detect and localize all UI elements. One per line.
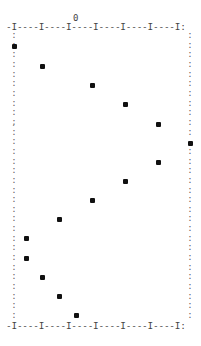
left-border: : : : : : : : : : ; : : : : : : : : : : …	[11, 31, 17, 321]
data-point-marker	[123, 179, 128, 184]
data-point-marker	[57, 217, 62, 222]
data-point-marker	[90, 83, 95, 88]
data-point-marker	[24, 256, 29, 261]
data-point-marker	[156, 122, 161, 127]
data-point-marker	[12, 44, 17, 49]
data-point-marker	[74, 313, 79, 318]
data-point-marker	[90, 198, 95, 203]
data-point-marker	[156, 160, 161, 165]
data-point-marker	[188, 141, 193, 146]
bottom-axis: -I----I----I----I----I----I----I:	[6, 321, 186, 331]
data-point-marker	[57, 294, 62, 299]
ascii-scatter-plot: 0 -I----I----I----I----I----I----I: : : …	[0, 0, 201, 346]
right-border: : : : : : : : : : : : : : : : : : : : : …	[187, 31, 193, 321]
data-point-marker	[24, 236, 29, 241]
data-point-marker	[40, 275, 45, 280]
data-point-marker	[123, 102, 128, 107]
top-axis: -I----I----I----I----I----I----I:	[6, 22, 186, 32]
data-point-marker	[40, 64, 45, 69]
